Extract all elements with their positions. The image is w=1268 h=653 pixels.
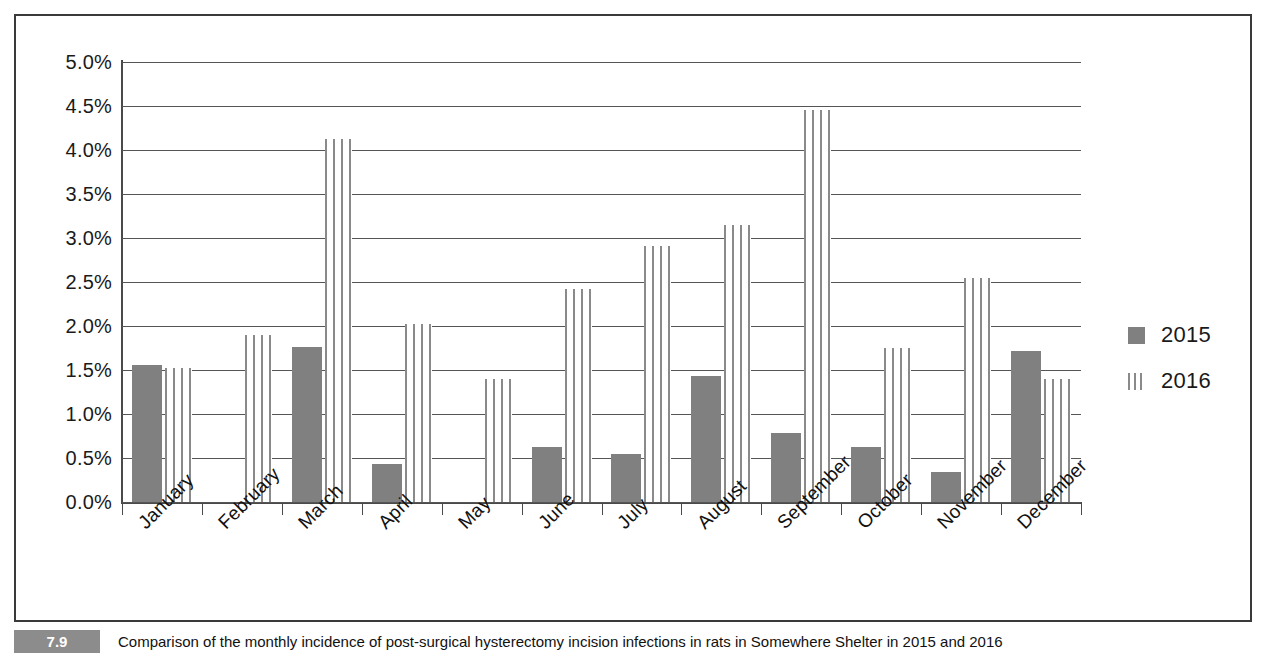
- figure-caption: 7.9 Comparison of the monthly incidence …: [14, 630, 1252, 653]
- y-axis-tick-label: 3.0%: [66, 227, 112, 250]
- bar-2016[interactable]: [724, 225, 751, 502]
- bar-group: [931, 62, 991, 502]
- y-axis-tick-label: 5.0%: [66, 51, 112, 74]
- figure-caption-text: Comparison of the monthly incidence of p…: [118, 630, 1003, 653]
- bar-2016[interactable]: [644, 246, 671, 502]
- x-axis-tick: [681, 504, 682, 515]
- bar-2016[interactable]: [405, 324, 432, 502]
- bar-2016[interactable]: [804, 110, 831, 502]
- legend-item-2016[interactable]: 2016: [1128, 358, 1238, 404]
- y-axis-tick-label: 3.5%: [66, 183, 112, 206]
- bar-group: [212, 62, 272, 502]
- bar-group: [691, 62, 751, 502]
- x-axis-tick: [921, 504, 922, 515]
- legend-label-2016: 2016: [1161, 368, 1211, 394]
- bar-group: [1011, 62, 1071, 502]
- x-axis-tick: [602, 504, 603, 515]
- bar-2015[interactable]: [1011, 351, 1041, 502]
- bar-2015[interactable]: [771, 433, 801, 502]
- bar-2015[interactable]: [691, 376, 721, 502]
- bar-group: [452, 62, 512, 502]
- bar-group: [611, 62, 671, 502]
- y-axis-tick-label: 1.5%: [66, 359, 112, 382]
- y-axis-tick-label: 2.5%: [66, 271, 112, 294]
- x-axis-tick: [202, 504, 203, 515]
- x-axis-tick: [522, 504, 523, 515]
- y-axis-tick-label: 1.0%: [66, 403, 112, 426]
- bar-2016[interactable]: [325, 139, 352, 502]
- y-axis-tick-label: 4.0%: [66, 139, 112, 162]
- figure-frame: 5.0%4.5%4.0%3.5%3.0%2.5%2.0%1.5%1.0%0.5%…: [14, 14, 1252, 622]
- plot-area: [122, 62, 1081, 502]
- bar-group: [532, 62, 592, 502]
- x-axis-tick: [442, 504, 443, 515]
- x-axis-tick: [761, 504, 762, 515]
- x-axis-tick: [282, 504, 283, 515]
- bar-2016[interactable]: [565, 289, 592, 502]
- bar-2015[interactable]: [132, 365, 162, 502]
- legend-item-2015[interactable]: 2015: [1128, 312, 1238, 358]
- bar-group: [292, 62, 352, 502]
- legend-label-2015: 2015: [1161, 322, 1211, 348]
- x-axis-tick: [1081, 504, 1082, 515]
- y-axis-tick-label: 0.5%: [66, 447, 112, 470]
- y-axis-tick-label: 2.0%: [66, 315, 112, 338]
- x-axis-tick: [1001, 504, 1002, 515]
- bar-2015[interactable]: [292, 347, 322, 502]
- bar-group: [372, 62, 432, 502]
- bar-group: [132, 62, 192, 502]
- chart-legend: 2015 2016: [1128, 312, 1238, 404]
- bar-group: [771, 62, 831, 502]
- figure-number-badge: 7.9: [14, 630, 100, 653]
- x-axis-tick: [841, 504, 842, 515]
- solid-square-icon: [1128, 327, 1145, 344]
- bar-2016[interactable]: [485, 379, 512, 502]
- x-axis-tick: [122, 504, 123, 515]
- y-axis-tick-labels: 5.0%4.5%4.0%3.5%3.0%2.5%2.0%1.5%1.0%0.5%…: [16, 16, 112, 556]
- gridline: [122, 502, 1081, 503]
- x-axis-tick: [362, 504, 363, 515]
- bar-group: [851, 62, 911, 502]
- striped-bars-icon: [1128, 373, 1145, 390]
- y-axis-tick-label: 4.5%: [66, 95, 112, 118]
- y-axis-tick-label: 0.0%: [66, 491, 112, 514]
